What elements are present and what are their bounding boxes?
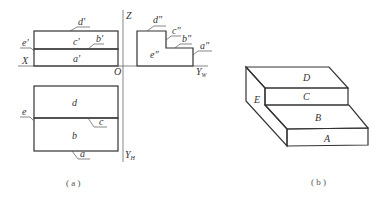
caption-b: ( b ) (311, 177, 326, 187)
label-d: d (72, 97, 78, 108)
front-view: d' c' b' a' e' (20, 16, 118, 66)
x-axis-label: X (21, 55, 29, 66)
label-A: A (323, 133, 331, 144)
z-axis-label: Z (126, 10, 132, 21)
label-b: b (72, 130, 77, 141)
label-a: a (80, 148, 85, 159)
caption-a: ( a ) (66, 178, 81, 188)
label-b-prime: b' (96, 33, 104, 44)
figure-a: Z X O YW YH d' c' b' a' e' d" c" b" (18, 10, 212, 188)
label-C: C (303, 91, 310, 102)
projection-diagram: Z X O YW YH d' c' b' a' e' d" c" b" (0, 0, 391, 206)
label-e-prime: e' (22, 37, 29, 48)
origin-label: O (114, 66, 121, 77)
label-c-prime: c' (73, 36, 80, 47)
label-c-double: c" (172, 25, 181, 36)
label-a-prime: a' (73, 53, 81, 64)
label-a-double: a" (200, 40, 210, 51)
figure-b: D C B A E ( b ) (246, 67, 368, 187)
label-e-double: e" (150, 49, 159, 60)
label-b-double: b" (182, 33, 192, 44)
label-B: B (315, 112, 321, 123)
label-d-double: d" (153, 14, 163, 25)
face-d (246, 67, 348, 88)
label-E: E (253, 94, 260, 105)
label-c: c (99, 116, 104, 127)
yh-axis-label: YH (125, 149, 136, 161)
yw-axis-label: YW (196, 66, 208, 78)
label-e: e (22, 106, 27, 117)
side-view: d" c" b" a" e" (137, 14, 212, 66)
label-d-prime: d' (78, 16, 86, 27)
top-view: d b c e a (20, 86, 118, 159)
label-D: D (302, 72, 311, 83)
